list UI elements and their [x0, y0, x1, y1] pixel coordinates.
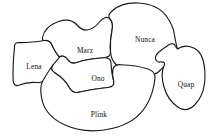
- region-label-quap: Quap: [178, 80, 195, 89]
- region-map-svg: LenaMarzNuncaOnoPlinkQuap: [0, 0, 217, 138]
- region-label-ono: Ono: [91, 74, 104, 83]
- region-label-lena: Lena: [26, 62, 42, 71]
- region-label-plink: Plink: [91, 110, 108, 119]
- region-label-marz: Marz: [77, 46, 94, 55]
- region-map-figure: LenaMarzNuncaOnoPlinkQuap: [0, 0, 217, 138]
- region-shapes-group: [13, 3, 205, 131]
- region-label-nunca: Nunca: [135, 35, 156, 44]
- region-shape-quap[interactable]: [155, 44, 205, 110]
